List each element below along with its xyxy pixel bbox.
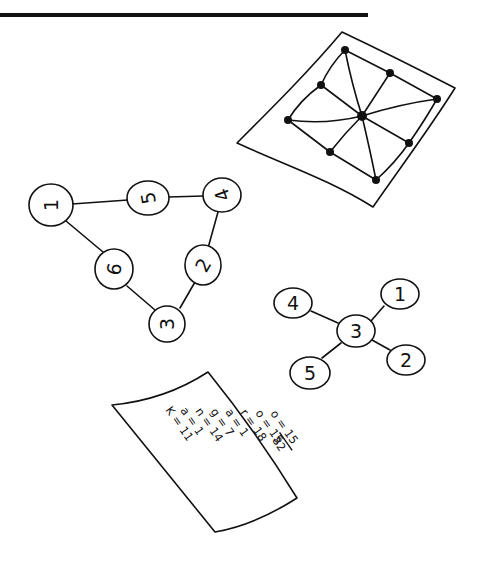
node-label: 5	[304, 362, 316, 384]
illustration-canvas: 1 5 4 2 6 3 3	[0, 0, 480, 562]
map-dot	[372, 176, 380, 184]
star-graph: 3 4 1 2 5	[274, 279, 425, 389]
node-label: 3	[156, 318, 178, 330]
star-node-1: 1	[381, 279, 419, 309]
triangle-graph: 1 5 4 2 6 3	[29, 178, 241, 342]
triangle-node-1: 1	[29, 184, 73, 226]
map-dot	[386, 69, 394, 77]
star-node-4: 4	[274, 288, 312, 318]
map-dots	[284, 46, 441, 184]
star-node-3: 3	[337, 315, 375, 347]
triangle-node-5: 5	[127, 181, 169, 215]
map-dot	[317, 81, 325, 89]
triangle-node-2: 2	[185, 245, 221, 285]
map-dot-center	[357, 111, 367, 121]
triangle-node-3: 3	[149, 306, 185, 342]
star-node-2: 2	[387, 345, 425, 375]
star-node-5: 5	[290, 357, 330, 389]
map-dot	[433, 95, 441, 103]
node-label: 2	[400, 349, 412, 371]
list-sheet-outline	[112, 372, 297, 532]
list-entries: K = 11 a = 1 n = 14 g = 7 a = 1 r = 18 o…	[163, 356, 304, 499]
node-label: 1	[394, 283, 406, 305]
list-sheet: K = 11 a = 1 n = 14 g = 7 a = 1 r = 18 o…	[112, 356, 304, 532]
map-sheet	[237, 32, 455, 207]
triangle-node-4: 4	[203, 178, 241, 212]
node-label: 3	[350, 320, 362, 342]
map-dot	[405, 139, 413, 147]
map-dot	[326, 148, 334, 156]
node-label: 1	[40, 199, 62, 211]
map-dot	[284, 116, 292, 124]
node-label: 4	[287, 292, 299, 314]
map-dot	[341, 46, 349, 54]
triangle-node-6: 6	[95, 249, 133, 289]
